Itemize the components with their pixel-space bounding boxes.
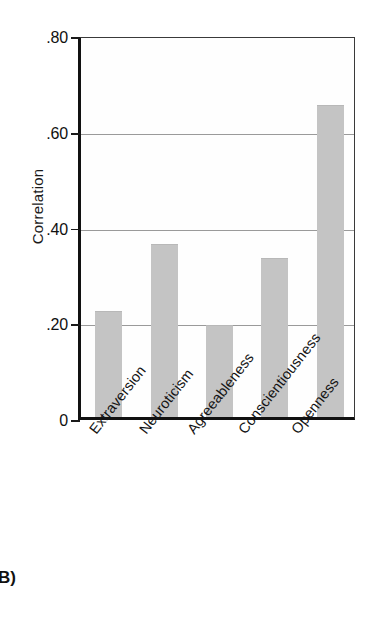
y-axis-tick xyxy=(71,37,80,39)
y-axis-tick-label: 0 xyxy=(59,412,68,430)
panel-letter: B) xyxy=(0,568,16,588)
y-axis-tick-label: .80 xyxy=(46,29,68,47)
bar-openness xyxy=(317,105,344,417)
y-axis-tick xyxy=(71,420,80,422)
y-axis-tick xyxy=(71,324,80,326)
y-axis-tick xyxy=(71,229,80,231)
y-axis-title: Correlation xyxy=(29,107,46,307)
plot-area: 0.20.40.60.80 xyxy=(78,37,355,420)
y-axis-tick-label: .20 xyxy=(46,316,68,334)
gridline xyxy=(81,134,354,135)
y-axis-tick-label: .60 xyxy=(46,125,68,143)
y-axis-tick xyxy=(71,133,80,135)
figure-panel-b: Correlation 0.20.40.60.80 ExtraversionNe… xyxy=(0,0,373,630)
y-axis-tick-label: .40 xyxy=(46,221,68,239)
gridline xyxy=(81,230,354,231)
